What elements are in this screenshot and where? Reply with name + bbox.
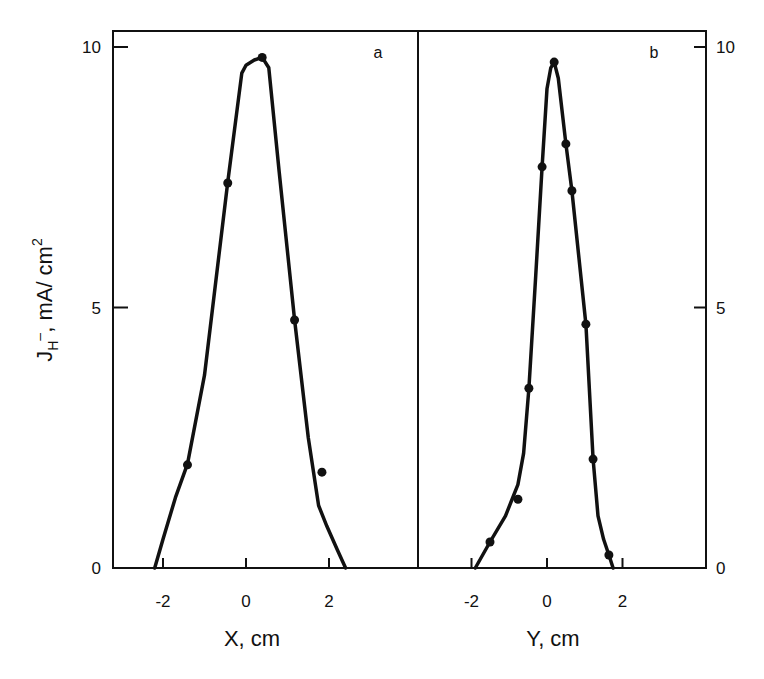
data-point bbox=[567, 186, 576, 195]
y-tick-label: 5 bbox=[92, 299, 101, 318]
x-axis-label: X, cm bbox=[224, 626, 280, 651]
data-point bbox=[513, 495, 522, 504]
data-point bbox=[604, 550, 613, 559]
data-point bbox=[550, 58, 559, 67]
y-tick-label: 10 bbox=[82, 38, 101, 57]
y-tick-label: 0 bbox=[92, 559, 101, 578]
chart-figure: -2020510aX, cm -2020510bY, cm JH–, mA/ c… bbox=[0, 0, 764, 679]
plot-frame bbox=[113, 31, 418, 568]
data-point bbox=[317, 468, 326, 477]
data-point bbox=[290, 316, 299, 325]
panel-a: -2020510aX, cm bbox=[82, 31, 418, 651]
data-point bbox=[524, 384, 533, 393]
data-point bbox=[581, 320, 590, 329]
x-tick-label: 0 bbox=[542, 592, 551, 611]
data-point bbox=[183, 460, 192, 469]
fit-curve bbox=[155, 57, 346, 568]
panel-b: -2020510bY, cm bbox=[418, 31, 735, 651]
y-tick-label: 5 bbox=[716, 299, 725, 318]
y-tick-label: 0 bbox=[716, 559, 725, 578]
x-tick-label: -2 bbox=[464, 592, 479, 611]
x-axis-label: Y, cm bbox=[526, 626, 579, 651]
fit-curve bbox=[475, 62, 613, 568]
x-tick-label: 2 bbox=[324, 592, 333, 611]
panel-label: a bbox=[374, 44, 383, 61]
data-point bbox=[258, 53, 267, 62]
y-tick-label: 10 bbox=[716, 38, 735, 57]
x-tick-label: 2 bbox=[618, 592, 627, 611]
y-axis-label: JH–, mA/ cm2 bbox=[29, 238, 61, 362]
panel-label: b bbox=[650, 44, 659, 61]
data-point bbox=[538, 162, 547, 171]
x-tick-label: -2 bbox=[155, 592, 170, 611]
data-point bbox=[485, 537, 494, 546]
x-tick-label: 0 bbox=[241, 592, 250, 611]
data-point bbox=[589, 455, 598, 464]
data-point bbox=[223, 178, 232, 187]
data-point bbox=[561, 139, 570, 148]
